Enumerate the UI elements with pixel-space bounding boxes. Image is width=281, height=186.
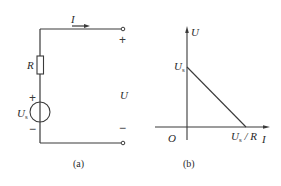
panel-b-graph: U I O Us Us / R (b): [155, 26, 270, 170]
x-intercept-label: Us / R: [231, 130, 257, 144]
bottom-terminal-icon: [121, 141, 125, 145]
origin-label: O: [168, 132, 176, 144]
resistor-label: R: [26, 59, 34, 71]
circuit-figure: I + R + − Us − U (a) U I O Us: [0, 0, 281, 186]
y-axis-arrow-icon: [185, 26, 189, 33]
current-arrow-icon: [72, 24, 90, 28]
current-label: I: [70, 13, 76, 25]
caption-a: (a): [73, 158, 84, 170]
terminal-plus-sign: +: [119, 33, 126, 47]
panel-a-circuit: I + R + − Us − U (a): [17, 13, 129, 170]
source-label: Us: [17, 107, 28, 121]
top-terminal-icon: [121, 27, 125, 31]
terminal-minus-sign: −: [119, 121, 126, 135]
resistor-icon: [37, 56, 44, 74]
x-axis-arrow-icon: [263, 125, 270, 129]
characteristic-line: [187, 67, 246, 127]
y-intercept-label: Us: [174, 60, 185, 74]
source-plus-sign: +: [29, 91, 36, 105]
caption-b: (b): [183, 158, 195, 170]
y-axis-label: U: [191, 26, 200, 38]
output-voltage-label: U: [120, 89, 129, 101]
source-minus-sign: −: [29, 122, 36, 136]
x-axis-label: I: [261, 133, 267, 145]
